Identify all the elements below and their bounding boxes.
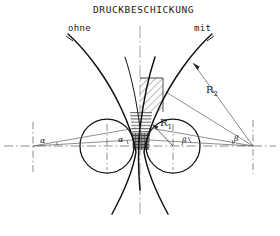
label-r1: R1 <box>160 118 172 131</box>
diagram-title: DRUCKBESCHICKUNG <box>93 5 194 15</box>
label-mit: mit <box>194 24 211 33</box>
label-alpha-outer: α <box>40 137 45 145</box>
diagram-canvas <box>0 0 280 236</box>
label-ohne: ohne <box>68 24 91 33</box>
druckbeschickung-diagram: DRUCKBESCHICKUNG ohne mit R1 R2 α α β β <box>0 0 280 236</box>
label-alpha-inner: α <box>118 136 123 144</box>
r2-leader <box>193 63 253 146</box>
alpha-inner-arc <box>127 141 128 144</box>
label-r2: R2 <box>206 85 218 98</box>
label-beta-inner: β <box>182 137 187 145</box>
beta-steep-ray <box>166 92 253 146</box>
label-beta-outer: β <box>234 135 239 143</box>
